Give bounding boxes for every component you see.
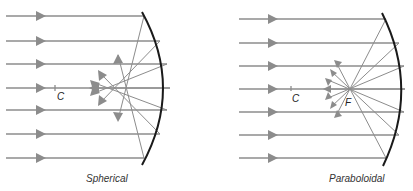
arrow-icon: [36, 105, 46, 115]
incident-rays: [6, 11, 170, 163]
arrow-icon: [36, 83, 46, 93]
mirror-diagram: C Spherical: [0, 0, 413, 191]
paraboloidal-panel: C F Paraboloidal: [239, 13, 405, 184]
arrow-icon: [36, 153, 46, 163]
reflected-rays: [89, 16, 170, 158]
arrow-icon: [36, 129, 46, 139]
center-label: C: [292, 93, 300, 104]
caption-spherical: Spherical: [86, 173, 128, 184]
spherical-panel: C Spherical: [6, 11, 170, 184]
focus-label: F: [345, 97, 352, 108]
caption-paraboloidal: Paraboloidal: [329, 173, 385, 184]
arrow-icon: [36, 59, 46, 69]
center-label: C: [57, 91, 65, 102]
arrow-icon: [36, 36, 46, 46]
arrow-icon: [36, 11, 46, 21]
